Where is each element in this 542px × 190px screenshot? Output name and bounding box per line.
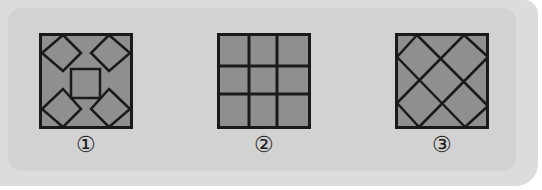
figure-2-label: ②: [244, 132, 284, 158]
figure-1-diagram: [39, 33, 133, 129]
figure-3-diagram: [395, 33, 489, 129]
figure-2-diagram: [217, 33, 311, 129]
figure-1-label: ①: [66, 132, 106, 158]
figure-3-label: ③: [422, 132, 462, 158]
